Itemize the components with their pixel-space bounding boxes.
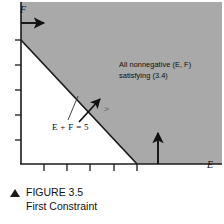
constraint-plot — [0, 0, 224, 178]
plot-area: F E All nonnegative (E, F) satisfying (3… — [0, 0, 224, 178]
caption-text: FIGURE 3.5 First Constraint — [26, 186, 97, 214]
y-axis-label: F — [20, 5, 26, 15]
feasible-region-shading — [21, 2, 222, 164]
caption-triangle-icon — [10, 189, 20, 197]
x-axis-label: E — [207, 160, 213, 170]
figure-container: F E All nonnegative (E, F) satisfying (3… — [0, 0, 224, 224]
inequality-glyph: > — [104, 104, 109, 114]
figure-caption: FIGURE 3.5 First Constraint — [10, 186, 97, 214]
constraint-equation-label: E + F = 5 — [52, 122, 89, 132]
feasible-region-annotation: All nonnegative (E, F) satisfying (3.4) — [119, 60, 219, 81]
x-axis-ticks — [44, 164, 137, 171]
equation-leader-line — [68, 96, 78, 120]
y-axis-ticks — [15, 40, 21, 140]
